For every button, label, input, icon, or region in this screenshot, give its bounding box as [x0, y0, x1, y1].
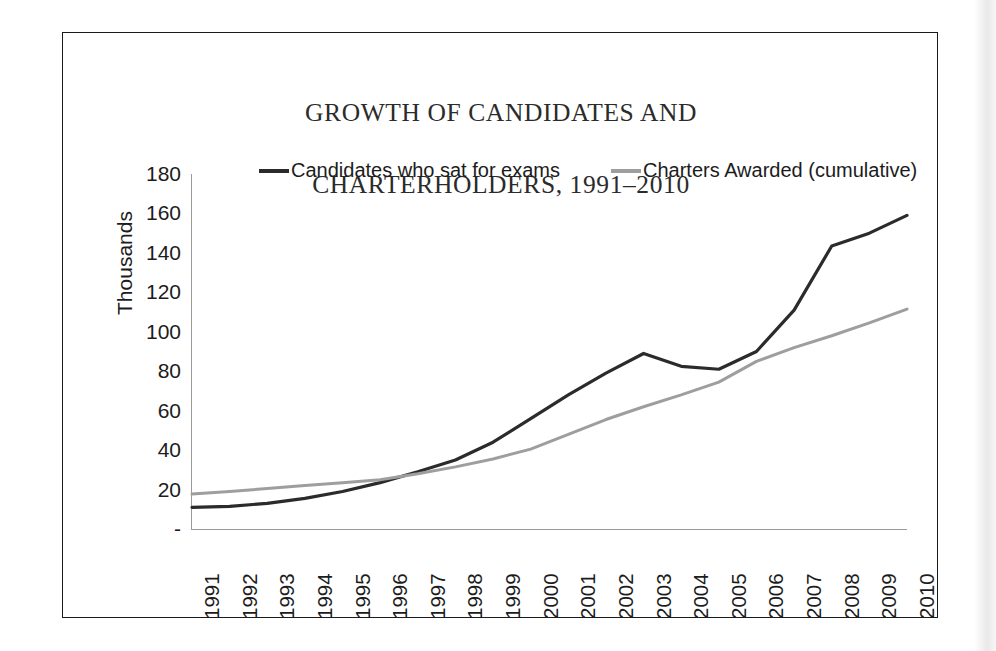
- y-axis-tick-20: 20: [121, 478, 181, 502]
- x-axis-tick-2001: 2001: [576, 593, 600, 619]
- x-axis-tick-1992: 1992: [238, 593, 262, 619]
- y-axis-tick-140: 140: [121, 241, 181, 265]
- x-axis-tick-1999: 1999: [501, 593, 525, 619]
- x-axis-tick-1994: 1994: [313, 593, 337, 619]
- y-axis-tick-60: 60: [121, 399, 181, 423]
- x-axis-tick-1991: 1991: [200, 593, 224, 619]
- x-axis-tick-2010: 2010: [915, 593, 939, 619]
- y-axis-tick--: -: [121, 517, 181, 541]
- series-lines: [192, 174, 907, 529]
- x-axis-tick-2004: 2004: [689, 593, 713, 619]
- page-edge-shadow: [974, 0, 996, 651]
- chart-title-line-1: GROWTH OF CANDIDATES AND: [63, 95, 939, 131]
- x-axis-tick-1998: 1998: [463, 593, 487, 619]
- plot-area: [191, 174, 907, 530]
- x-axis-tick-2005: 2005: [727, 593, 751, 619]
- x-axis-tick-2003: 2003: [652, 593, 676, 619]
- x-axis-tick-1996: 1996: [388, 593, 412, 619]
- chart-figure-frame: GROWTH OF CANDIDATES AND CHARTERHOLDERS,…: [62, 32, 938, 618]
- x-axis-tick-2009: 2009: [877, 593, 901, 619]
- y-axis-tick-180: 180: [121, 162, 181, 186]
- x-axis-tick-2006: 2006: [764, 593, 788, 619]
- y-axis-tick-160: 160: [121, 201, 181, 225]
- y-axis-tick-80: 80: [121, 359, 181, 383]
- x-axis-tick-1997: 1997: [426, 593, 450, 619]
- x-axis-tick-2002: 2002: [614, 593, 638, 619]
- y-axis-tick-100: 100: [121, 320, 181, 344]
- series-line-0: [192, 215, 907, 507]
- legend-line-swatch-icon: [259, 169, 289, 173]
- y-axis-tick-120: 120: [121, 280, 181, 304]
- x-axis-tick-2000: 2000: [539, 593, 563, 619]
- x-axis-tick-1995: 1995: [351, 593, 375, 619]
- series-line-1: [192, 309, 907, 494]
- x-axis-tick-2007: 2007: [802, 593, 826, 619]
- x-axis-tick-1993: 1993: [275, 593, 299, 619]
- y-axis-tick-labels: -20406080100120140160180: [115, 174, 181, 529]
- y-axis-tick-40: 40: [121, 438, 181, 462]
- legend-line-swatch-icon: [611, 169, 641, 173]
- x-axis-tick-labels: 1991199219931994199519961997199819992000…: [191, 533, 906, 623]
- x-axis-tick-2008: 2008: [840, 593, 864, 619]
